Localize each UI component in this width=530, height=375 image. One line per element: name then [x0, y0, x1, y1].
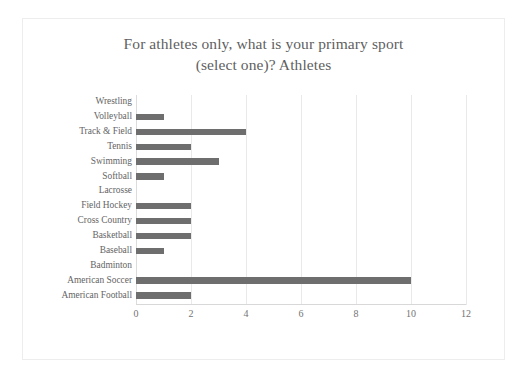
chart-title: For athletes only, what is your primary … [23, 33, 504, 75]
y-axis-label: Lacrosse [23, 185, 132, 196]
x-tick-label: 6 [286, 307, 316, 320]
bar[interactable] [136, 248, 164, 254]
bar[interactable] [136, 129, 246, 135]
y-axis-label: Badminton [23, 260, 132, 271]
bar[interactable] [136, 114, 164, 120]
bar-row [136, 125, 466, 140]
chart-title-line-2: (select one)? Athletes [23, 54, 504, 75]
bar-row [136, 95, 466, 110]
y-axis-label: Field Hockey [23, 200, 132, 211]
bar-row [136, 259, 466, 274]
x-tick-label: 2 [176, 307, 206, 320]
y-axis-label: Softball [23, 171, 132, 182]
bar[interactable] [136, 218, 191, 224]
bar-row [136, 184, 466, 199]
bar[interactable] [136, 203, 191, 209]
y-axis-label: Wrestling [23, 96, 132, 107]
bar[interactable] [136, 158, 219, 164]
y-axis-label: Basketball [23, 230, 132, 241]
gridline-12 [466, 95, 467, 305]
y-axis-label: Swimming [23, 156, 132, 167]
x-axis-baseline [136, 304, 466, 305]
chart-title-line-1: For athletes only, what is your primary … [23, 33, 504, 54]
x-tick-label: 8 [341, 307, 371, 320]
bar-row [136, 169, 466, 184]
bar-row [136, 244, 466, 259]
bar-row [136, 110, 466, 125]
y-axis-label: American Football [23, 290, 132, 301]
x-axis-tick-labels: 024681012 [136, 307, 466, 323]
y-axis-label: Cross Country [23, 215, 132, 226]
bar-row [136, 273, 466, 288]
bar-row [136, 140, 466, 155]
y-axis-label: Tennis [23, 141, 132, 152]
plot-area [136, 95, 466, 305]
bar[interactable] [136, 173, 164, 179]
y-axis-category-labels: WrestlingVolleyballTrack & FieldTennisSw… [23, 95, 136, 305]
plot-wrapper: WrestlingVolleyballTrack & FieldTennisSw… [23, 95, 506, 319]
bar[interactable] [136, 144, 191, 150]
bar-row [136, 288, 466, 303]
bar-row [136, 229, 466, 244]
y-axis-label: Baseball [23, 245, 132, 256]
bar[interactable] [136, 233, 191, 239]
bar[interactable] [136, 292, 191, 298]
y-axis-label: Track & Field [23, 126, 132, 137]
chart-container: For athletes only, what is your primary … [22, 18, 505, 360]
bar-row [136, 199, 466, 214]
x-tick-label: 12 [451, 307, 481, 320]
bar-row [136, 214, 466, 229]
y-axis-label: Volleyball [23, 111, 132, 122]
x-tick-label: 4 [231, 307, 261, 320]
y-axis-label: American Soccer [23, 275, 132, 286]
bar[interactable] [136, 277, 411, 283]
x-tick-label: 10 [396, 307, 426, 320]
x-tick-label: 0 [121, 307, 151, 320]
bar-row [136, 154, 466, 169]
